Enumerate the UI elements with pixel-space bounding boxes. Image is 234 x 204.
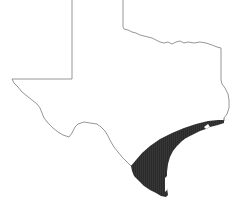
coastal-bay-notch (165, 176, 167, 192)
state-outline (12, 0, 229, 166)
texas-range-map: Texas Gulf coastal plain / South Texas c… (0, 0, 234, 204)
map-canvas (0, 0, 234, 204)
